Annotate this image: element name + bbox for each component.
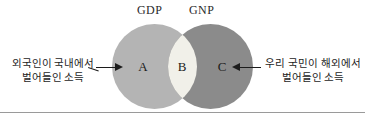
region-label-c: C [212, 59, 232, 75]
region-label-a: A [133, 59, 153, 75]
venn-diagram-figure: GDP GNP A B C 외국인이 국내에서 벌어들인 소득 우리 국민이 해… [0, 0, 365, 121]
annotation-right-line1: 우리 국민이 해외에서 [265, 56, 361, 70]
set-label-gdp: GDP [137, 3, 162, 18]
arrow-head [232, 63, 240, 71]
arrow-shaft [96, 67, 117, 68]
arrow-left-pointing-icon [232, 63, 261, 72]
annotation-left-line2: 벌어들인 소득 [7, 70, 99, 84]
annotation-left: 외국인이 국내에서 벌어들인 소득 [7, 56, 99, 84]
arrow-right-pointing-icon [96, 63, 124, 72]
region-label-b: B [172, 59, 192, 75]
annotation-right: 우리 국민이 해외에서 벌어들인 소득 [265, 56, 361, 84]
annotation-left-line1: 외국인이 국내에서 [7, 56, 99, 70]
bottom-divider [0, 112, 365, 113]
arrow-shaft [240, 67, 261, 68]
set-label-gnp: GNP [189, 3, 214, 18]
arrow-head [115, 63, 123, 71]
annotation-right-line2: 벌어들인 소득 [265, 70, 361, 84]
